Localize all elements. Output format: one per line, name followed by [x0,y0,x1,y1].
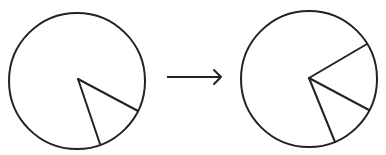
right-circle-group [241,11,377,147]
left-circle-group [9,13,145,149]
left-circle [9,13,145,149]
diagram-stage [0,0,386,155]
right-radius-3 [309,78,335,142]
arrow-icon [167,70,221,84]
sector-transformation-diagram [0,0,386,155]
right-radius-1 [309,44,367,78]
right-radius-2 [309,78,369,110]
